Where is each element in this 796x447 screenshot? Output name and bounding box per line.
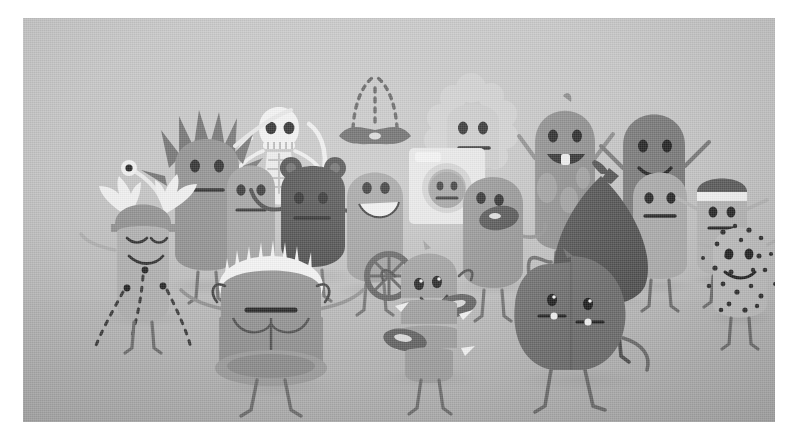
blood-spray-icon (353, 76, 397, 128)
screenshot-root: Dumb Ways to Die ensemble cast flat vect… (0, 0, 796, 447)
character-flattened-splat (339, 76, 411, 144)
character-ensemble (23, 18, 775, 422)
character-in-washing-machine (429, 172, 465, 208)
illustration-canvas (23, 18, 775, 422)
